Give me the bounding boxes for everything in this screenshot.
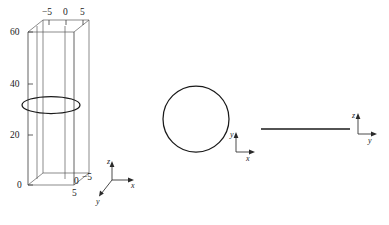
- box-front-edges: [28, 32, 74, 185]
- triad3-arrow-z: [356, 113, 361, 119]
- triad-label-z: z: [106, 157, 111, 166]
- cylinder-walls: [37, 26, 65, 179]
- x-axis-ticks: [49, 20, 83, 25]
- axis-triad-zy: z y: [351, 111, 377, 145]
- axis-triad-xy: y x: [229, 130, 255, 163]
- z-axis-ticks: [28, 32, 33, 185]
- triad3-label-z: z: [351, 111, 356, 120]
- triad-arrow-z: [110, 161, 115, 167]
- corner-label-minus5: −5: [82, 172, 92, 182]
- panel-circle-xy: y x: [163, 86, 255, 163]
- axis-triad-3d: z x y: [95, 157, 135, 206]
- figure-root: 60 40 20 0 −5 0 5 0 −5 5: [0, 0, 389, 225]
- triad3-arrow-y: [371, 132, 377, 137]
- ellipse-cross-section: [22, 97, 80, 114]
- x-tick-label-0: 0: [63, 7, 68, 17]
- panel-line-zy: z y: [261, 111, 377, 145]
- corner-label-0: 0: [74, 176, 79, 186]
- figure-canvas: 60 40 20 0 −5 0 5 0 −5 5: [0, 0, 389, 225]
- z-tick-label-20: 20: [10, 130, 20, 140]
- z-tick-label-40: 40: [10, 79, 20, 89]
- triad-label-y: y: [95, 197, 100, 206]
- triad2-label-x: x: [245, 154, 250, 163]
- triad2-arrow-x: [249, 150, 255, 155]
- circle-projection: [163, 86, 229, 152]
- triad2-arrow-y: [234, 132, 239, 138]
- panel-3d-cylinder: 60 40 20 0 −5 0 5 0 −5 5: [10, 7, 135, 206]
- x-tick-label-minus5: −5: [42, 7, 52, 17]
- triad2-label-y: y: [229, 130, 234, 139]
- corner-label-5: 5: [72, 188, 77, 198]
- triad-label-x: x: [130, 181, 135, 190]
- triad3-label-y: y: [367, 136, 372, 145]
- x-tick-label-5: 5: [80, 7, 85, 17]
- triad-axis-y: [101, 180, 112, 194]
- z-tick-label-0: 0: [17, 180, 22, 190]
- z-tick-label-60: 60: [10, 27, 20, 37]
